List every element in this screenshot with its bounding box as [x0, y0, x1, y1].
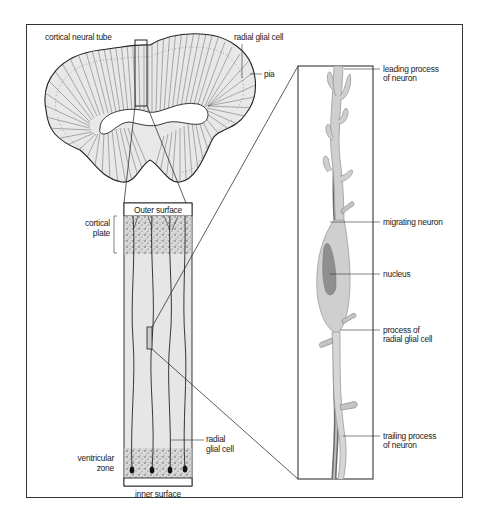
label-cortical-plate-1: cortical	[85, 218, 110, 228]
inner-surface-band	[124, 478, 192, 486]
neural-tube-outline	[45, 34, 256, 182]
label-cortical-plate-2: plate	[93, 228, 111, 238]
label-ventricular-zone-1: ventricular	[78, 453, 115, 463]
label-trailing-process-2: of neuron	[383, 440, 417, 450]
label-radial-glial-cell-col-2: glial cell	[206, 444, 234, 454]
neural-tube	[42, 30, 260, 184]
label-ventricular-zone-2: zone	[97, 463, 115, 473]
ventricular-zone-layer	[125, 448, 192, 478]
label-inner-surface: inner surface	[135, 489, 181, 499]
label-radial-glial-cell-col-1: radial	[206, 434, 226, 444]
label-outer-surface: Outer surface	[134, 205, 183, 215]
label-cortical-neural-tube: cortical neural tube	[45, 32, 112, 42]
label-pia: pia	[264, 69, 275, 79]
label-radial-glial-cell-top: radial glial cell	[234, 32, 284, 42]
cortical-plate-bracket	[114, 216, 117, 253]
label-process-radial-2: radial glial cell	[383, 334, 433, 344]
inset-panel	[298, 60, 373, 490]
cortical-plate-layer	[125, 216, 192, 254]
figure-canvas: cortical neural tube radial glial cell p…	[0, 0, 484, 518]
label-nucleus: nucleus	[383, 269, 410, 279]
label-migrating-neuron: migrating neuron	[383, 217, 443, 227]
cortical-column: Outer surface	[124, 203, 192, 486]
label-leading-process-2: of neuron	[383, 73, 417, 83]
magnified-region-box	[147, 327, 152, 349]
